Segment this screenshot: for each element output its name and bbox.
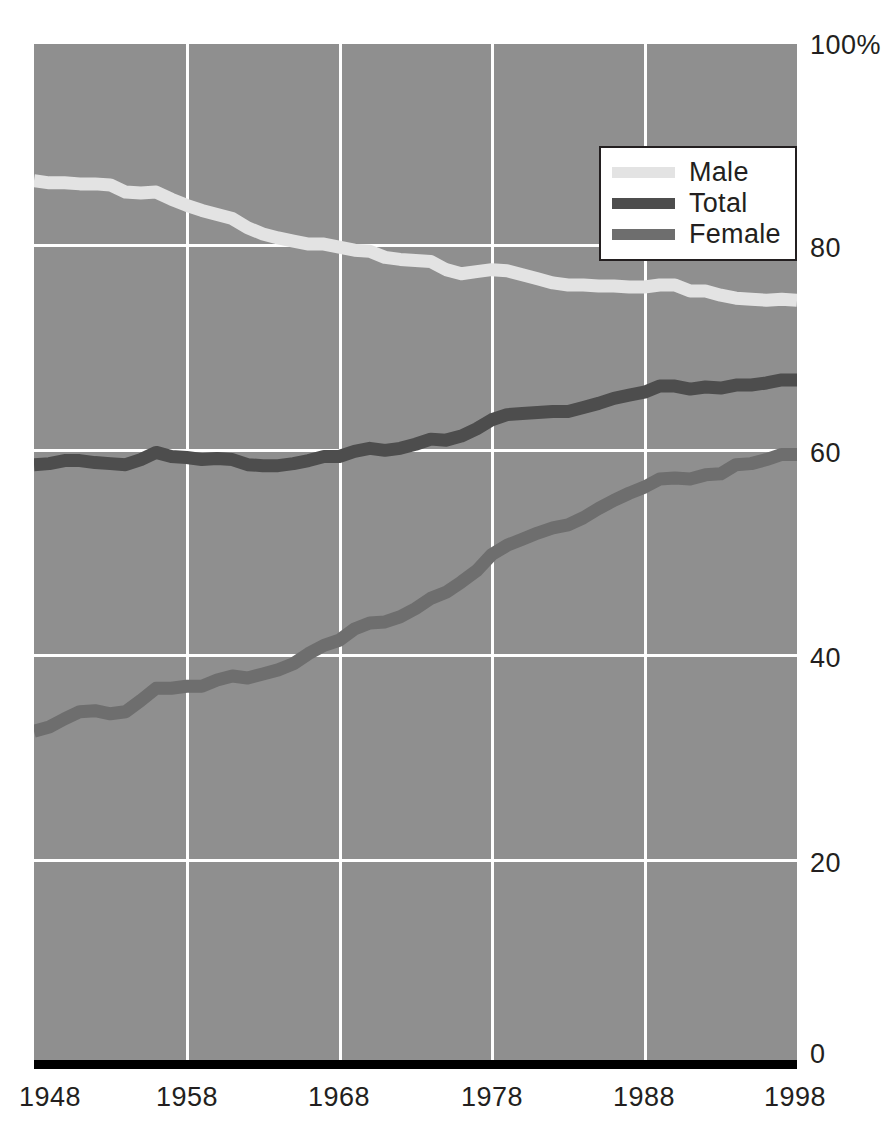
legend-swatch-male <box>612 167 675 178</box>
legend-swatch-total <box>612 198 675 209</box>
legend-label-male: Male <box>689 159 749 186</box>
x-axis-tick-1958: 1958 <box>137 1084 237 1111</box>
x-axis-tick-1988: 1988 <box>594 1084 694 1111</box>
y-axis-tick-80: 80 <box>810 235 841 262</box>
legend-label-female: Female <box>689 221 781 248</box>
x-axis-tick-1998: 1998 <box>745 1084 845 1111</box>
plot-area: Male Total Female <box>34 44 797 1065</box>
legend-item-total: Total <box>612 188 781 219</box>
x-axis-tick-1978: 1978 <box>442 1084 542 1111</box>
x-axis-tick-1948: 1948 <box>0 1084 100 1111</box>
legend-label-total: Total <box>689 190 748 217</box>
legend: Male Total Female <box>599 146 797 261</box>
y-axis-tick-40: 40 <box>810 645 841 672</box>
y-axis-tick-0: 0 <box>810 1041 826 1068</box>
x-axis-tick-1968: 1968 <box>289 1084 389 1111</box>
y-axis-tick-20: 20 <box>810 850 841 877</box>
legend-item-female: Female <box>612 219 781 250</box>
series-line-female <box>34 454 797 731</box>
legend-item-male: Male <box>612 157 781 188</box>
axis-baseline <box>34 1060 797 1069</box>
y-axis-tick-100: 100% <box>810 32 881 59</box>
series-line-total <box>34 380 797 466</box>
legend-swatch-female <box>612 229 675 240</box>
y-axis-tick-60: 60 <box>810 440 841 467</box>
chart-figure: Male Total Female 100% 80 60 40 20 0 194… <box>0 0 895 1131</box>
